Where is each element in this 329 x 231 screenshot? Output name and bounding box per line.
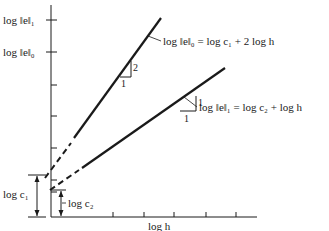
- x-axis-label: log h: [148, 220, 170, 231]
- intercept-label-c2: log c₂: [68, 197, 94, 209]
- line-e0-solid: [74, 18, 161, 138]
- slope-upper-rise: 2: [133, 62, 138, 74]
- slope-upper-run: 1: [121, 78, 126, 90]
- slope-lower-run: 1: [184, 113, 189, 125]
- x-ticks: [113, 212, 236, 217]
- equation-lower: log ‖e‖₁ = log c₂ + log h: [199, 101, 302, 113]
- equation-upper: log ‖e‖₀ = log c₁ + 2 log h: [163, 35, 274, 47]
- slope-lower-rise: 1: [198, 97, 203, 109]
- intercept-label-c1: log c₁: [3, 188, 29, 200]
- y-label-log-e0: log ‖e‖₀: [3, 46, 35, 58]
- line-e1-solid: [82, 68, 225, 168]
- y-label-log-e1: log ‖e‖₁: [3, 14, 35, 26]
- line-e0-dashed: [45, 143, 71, 178]
